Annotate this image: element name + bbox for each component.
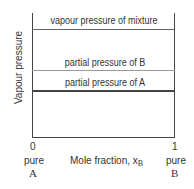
partial-b-line-label: partial pressure of B bbox=[56, 58, 155, 68]
right-tick-label: 1 bbox=[172, 142, 178, 152]
left-tick-label: 0 bbox=[30, 142, 36, 152]
mixture-line bbox=[32, 29, 175, 30]
left-axis bbox=[32, 13, 33, 138]
right-axis bbox=[174, 13, 175, 138]
x-axis-label-subscript: B bbox=[138, 159, 143, 168]
partial-a-line bbox=[32, 90, 175, 92]
pure-a-letter: A bbox=[29, 168, 37, 178]
mixture-line-label: vapour pressure of mixture bbox=[46, 16, 161, 26]
partial-a-line-label: partial pressure of A bbox=[56, 78, 155, 88]
bottom-axis bbox=[32, 137, 175, 138]
pure-a-label: pure bbox=[24, 156, 44, 166]
y-axis-label: Vapour pressure bbox=[13, 28, 24, 108]
partial-b-line bbox=[32, 70, 175, 71]
pure-b-letter: B bbox=[171, 168, 178, 178]
pure-b-label: pure bbox=[166, 156, 186, 166]
x-axis-label: Mole fraction, xB bbox=[70, 156, 143, 169]
x-axis-label-text: Mole fraction, x bbox=[70, 155, 138, 166]
